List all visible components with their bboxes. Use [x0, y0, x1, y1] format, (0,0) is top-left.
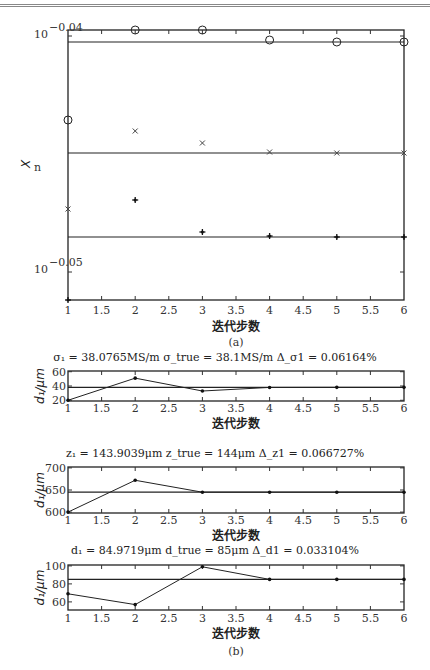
y-tick-label: 60 — [52, 366, 66, 379]
x-tick-label: 3 — [199, 304, 206, 317]
y-axis-title: d₁/μm — [33, 472, 47, 508]
x-tick-label: 1.5 — [93, 402, 111, 415]
star-marker-center — [335, 236, 338, 239]
x-tick-label: 1 — [65, 304, 72, 317]
y-axis-title: d₁/μm — [33, 368, 47, 404]
plot-frame — [68, 30, 404, 300]
x-tick-label: 5.5 — [362, 304, 380, 317]
y-axis-title: X — [19, 159, 33, 169]
x-axis-title: 迭代步数 — [212, 416, 261, 431]
y-tick-label: 700 — [45, 462, 66, 475]
data-point — [66, 398, 70, 402]
y-tick-label: 650 — [45, 484, 66, 497]
x-tick-label: 4.5 — [294, 304, 312, 317]
data-point — [402, 578, 406, 582]
data-point — [133, 603, 137, 607]
x-tick-label: 1.5 — [93, 612, 111, 625]
data-point — [201, 490, 205, 494]
x-tick-label: 2.5 — [160, 402, 178, 415]
x-tick-label: 4.5 — [294, 612, 312, 625]
data-point — [335, 386, 339, 390]
plot-frame — [68, 467, 404, 513]
data-point — [133, 478, 137, 482]
data-point — [335, 578, 339, 582]
x-tick-label: 3 — [199, 514, 206, 527]
x-tick-label: 6 — [401, 402, 408, 415]
data-point — [201, 565, 205, 569]
x-tick-label: 2 — [132, 514, 139, 527]
x-tick-label: 5 — [333, 304, 340, 317]
x-tick-label: 5 — [333, 514, 340, 527]
subplot-title: d₁ = 84.9719μm d_true = 85μm Δ_d1 = 0.03… — [71, 544, 359, 557]
y-tick-label: 60 — [52, 596, 66, 609]
x-tick-label: 4 — [266, 402, 273, 415]
subplot-title: σ₁ = 38.0765MS/m σ_true = 38.1MS/m Δ_σ1 … — [53, 351, 377, 364]
star-marker-center — [403, 236, 406, 239]
x-tick-label: 6 — [401, 612, 408, 625]
convergence-line — [68, 567, 404, 605]
star-marker-center — [201, 231, 204, 234]
x-tick-label: 5.5 — [362, 514, 380, 527]
y-tick-exponent: −0.05 — [49, 256, 83, 269]
x-tick-label: 2.5 — [160, 304, 178, 317]
star-marker-center — [67, 299, 70, 302]
y-tick-label: 40 — [52, 380, 66, 393]
x-tick-label: 6 — [401, 514, 408, 527]
x-tick-label: 6 — [401, 304, 408, 317]
x-tick-label: 3.5 — [227, 304, 245, 317]
y-axis-title: d₁/μm — [33, 570, 47, 606]
data-point — [133, 376, 137, 380]
x-tick-label: 2 — [132, 402, 139, 415]
x-tick-label: 2.5 — [160, 514, 178, 527]
x-tick-label: 4 — [266, 612, 273, 625]
data-point — [268, 578, 272, 582]
x-tick-label: 1.5 — [93, 304, 111, 317]
data-point — [66, 592, 70, 596]
data-point — [402, 386, 406, 390]
plot-frame — [68, 371, 404, 401]
subplot-title: z₁ = 143.9039μm z_true = 144μm Δ_z1 = 0.… — [66, 447, 364, 460]
x-tick-label: 3.5 — [227, 402, 245, 415]
y-tick-label: 10 — [34, 28, 48, 41]
circle-marker — [266, 36, 274, 44]
x-tick-label: 1 — [65, 612, 72, 625]
y-tick-label: 10 — [34, 263, 48, 276]
data-point — [268, 490, 272, 494]
x-tick-label: 1.5 — [93, 514, 111, 527]
x-tick-label: 4 — [266, 304, 273, 317]
x-tick-label: 3 — [199, 402, 206, 415]
x-tick-label: 3.5 — [227, 612, 245, 625]
x-axis-title: 迭代步数 — [212, 319, 261, 334]
star-marker-center — [134, 199, 137, 202]
y-tick-label: 600 — [45, 506, 66, 519]
caption-b: (b) — [228, 645, 244, 658]
data-point — [201, 389, 205, 393]
convergence-line — [68, 378, 404, 400]
x-tick-label: 2 — [132, 612, 139, 625]
convergence-line — [68, 480, 404, 512]
y-tick-label: 80 — [52, 578, 66, 591]
x-tick-label: 4.5 — [294, 514, 312, 527]
x-tick-label: 5.5 — [362, 612, 380, 625]
x-tick-label: 4 — [266, 514, 273, 527]
x-tick-label: 5 — [333, 612, 340, 625]
y-tick-label: 20 — [52, 394, 66, 407]
data-point — [268, 386, 272, 390]
x-tick-label: 2.5 — [160, 612, 178, 625]
x-tick-label: 2 — [132, 304, 139, 317]
data-point — [402, 490, 406, 494]
x-axis-title: 迭代步数 — [212, 626, 261, 641]
plot-frame — [68, 565, 404, 610]
x-tick-label: 5 — [333, 402, 340, 415]
star-marker-center — [268, 235, 271, 238]
x-tick-label: 3.5 — [227, 514, 245, 527]
x-axis-title: 迭代步数 — [212, 528, 261, 543]
y-axis-subscript: n — [34, 161, 41, 174]
x-tick-label: 5.5 — [362, 402, 380, 415]
data-point — [335, 490, 339, 494]
figure-canvas: 11.522.533.544.555.56迭代步数(a)10−0.0410−0.… — [0, 0, 430, 670]
x-tick-label: 4.5 — [294, 402, 312, 415]
data-point — [66, 510, 70, 514]
caption-a: (a) — [228, 336, 243, 349]
x-tick-label: 3 — [199, 612, 206, 625]
